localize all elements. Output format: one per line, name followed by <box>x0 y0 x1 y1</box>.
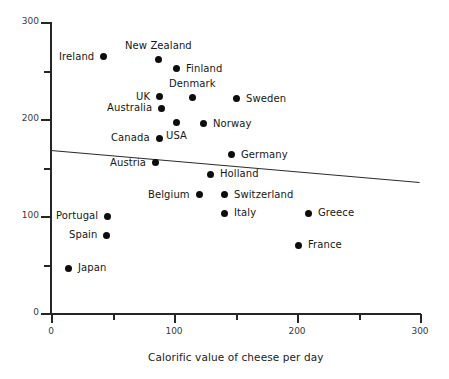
data-point-label: New Zealand <box>125 41 192 51</box>
data-point-label: Denmark <box>169 79 216 89</box>
data-point-label: Germany <box>241 150 288 160</box>
data-point <box>104 213 111 220</box>
x-tick-label-100: 100 <box>154 327 194 336</box>
data-point <box>152 159 159 166</box>
data-point <box>156 93 163 100</box>
data-point-label: France <box>308 240 342 250</box>
data-point <box>200 120 207 127</box>
data-point <box>295 242 302 249</box>
y-tick-100 <box>41 216 50 218</box>
data-point-label: Italy <box>234 208 256 218</box>
data-point-label: Ireland <box>59 52 94 62</box>
data-point-label: Portugal <box>56 211 98 221</box>
y-tick-300 <box>41 22 50 24</box>
y-axis-line <box>50 22 52 314</box>
data-point-label: Australia <box>107 103 152 113</box>
y-tick-150 <box>44 168 50 170</box>
data-point <box>233 95 240 102</box>
x-tick-0 <box>51 314 53 323</box>
y-tick-0 <box>41 313 50 315</box>
data-point-label: Norway <box>213 119 252 129</box>
data-point-label: Japan <box>78 263 106 273</box>
data-point-label: Finland <box>186 64 222 74</box>
x-axis-title: Calorific value of cheese per day <box>148 351 324 363</box>
data-point-label: Spain <box>69 230 97 240</box>
data-point <box>221 210 228 217</box>
x-tick-label-300: 300 <box>400 327 440 336</box>
data-point <box>196 191 203 198</box>
data-point-label: Holland <box>220 169 259 179</box>
y-tick-250 <box>44 71 50 73</box>
data-point-label: Switzerland <box>234 190 293 200</box>
x-tick-250 <box>359 314 361 320</box>
y-tick-label-200: 200 <box>10 114 39 123</box>
data-point <box>156 135 163 142</box>
data-point-label: Belgium <box>148 190 190 200</box>
data-point <box>189 94 196 101</box>
data-point-label: Greece <box>318 208 354 218</box>
y-tick-50 <box>44 265 50 267</box>
data-point <box>103 232 110 239</box>
y-tick-200 <box>41 119 50 121</box>
y-tick-label-300: 300 <box>10 17 39 26</box>
data-point <box>173 119 180 126</box>
data-point-label: UK <box>136 92 150 102</box>
data-point <box>65 265 72 272</box>
data-point <box>305 210 312 217</box>
data-point-label: Sweden <box>246 94 286 104</box>
data-point-label: Canada <box>111 133 150 143</box>
x-tick-200 <box>297 314 299 323</box>
data-point-label: Austria <box>110 158 146 168</box>
y-tick-label-0: 0 <box>10 308 39 317</box>
data-point <box>100 53 107 60</box>
data-point <box>173 65 180 72</box>
data-point <box>228 151 235 158</box>
y-tick-label-100: 100 <box>10 211 39 220</box>
x-tick-label-200: 200 <box>277 327 317 336</box>
x-tick-label-0: 0 <box>31 327 71 336</box>
scatter-chart: 01002003000100200300 IrelandNew ZealandF… <box>0 0 449 379</box>
data-point-label: USA <box>166 131 187 141</box>
x-tick-100 <box>174 314 176 323</box>
data-point <box>155 56 162 63</box>
x-tick-300 <box>420 314 422 323</box>
data-point <box>207 171 214 178</box>
x-tick-50 <box>113 314 115 320</box>
data-point <box>158 105 165 112</box>
x-tick-150 <box>236 314 238 320</box>
data-point <box>221 191 228 198</box>
